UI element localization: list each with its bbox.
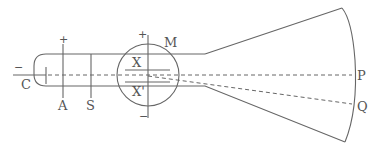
cathode-label: C <box>21 77 31 92</box>
plate-x-label: X <box>132 55 142 70</box>
plate-top-sign: + <box>138 28 147 41</box>
tube-flare-top <box>205 8 342 54</box>
slit-label: S <box>86 98 95 113</box>
point-p-label: P <box>357 68 366 83</box>
tube-outline <box>34 54 345 142</box>
point-q-label: Q <box>357 99 368 114</box>
anode-sign: + <box>59 33 68 46</box>
anode-label: A <box>57 98 68 113</box>
crt-diagram: − C + A S + − M X X' P Q <box>0 0 376 151</box>
plate-bottom-sign: − <box>139 110 148 123</box>
plate-x-prime-label: X' <box>132 84 145 99</box>
magnet-label: M <box>164 35 177 50</box>
cathode-sign: − <box>14 61 23 74</box>
